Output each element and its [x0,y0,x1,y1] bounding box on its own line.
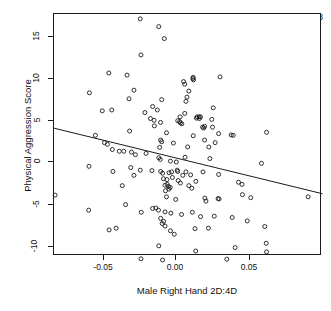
y-tick-mark [48,161,53,162]
scatter-plot-figure: Partial r = -0.21, p = 0.028 -0.05 0.00 … [0,0,331,311]
data-point [207,145,211,149]
data-point [211,106,215,110]
data-point [163,224,167,228]
y-tick-label: 0 [0,156,40,166]
data-point [217,132,221,136]
data-point [107,228,111,232]
data-point [124,203,128,207]
x-tick-label: -0.05 [83,262,123,272]
data-point [240,182,244,186]
data-point [176,178,180,182]
data-point [183,155,187,159]
y-tick-label: 5 [0,115,40,125]
y-axis-title: Physical Aggression Score [22,1,33,271]
data-point [93,133,97,137]
data-point [128,129,132,133]
data-point [240,193,244,197]
data-point [259,161,263,165]
data-point [110,148,114,152]
data-point [168,229,172,233]
data-point [168,159,172,163]
data-point [249,196,253,200]
data-point [211,125,215,129]
data-point [155,108,159,112]
data-point [217,172,221,176]
x-axis-title: Male Right Hand 2D:4D [53,285,321,296]
data-point [132,88,136,92]
data-point [191,134,195,138]
data-point [306,195,310,199]
data-point [151,105,155,109]
y-tick-mark [48,246,53,247]
data-point [139,210,143,214]
data-point [162,37,166,41]
plot-panel [53,13,321,255]
data-point [87,91,91,95]
data-point [138,168,142,172]
data-point [213,141,217,145]
data-point [172,232,176,236]
data-point [230,215,234,219]
data-point [174,160,178,164]
data-point [174,197,178,201]
data-point [152,124,156,128]
data-point [133,153,137,157]
data-point [100,109,104,113]
x-tick-label: 0.05 [229,262,269,272]
data-point [199,215,203,219]
x-tick-label: 0.00 [155,262,195,272]
data-point [178,181,182,185]
data-point [111,169,115,173]
data-point [194,179,198,183]
data-point [159,120,163,124]
data-point [189,173,193,177]
data-point [180,212,184,216]
data-point [129,166,133,170]
data-point [157,244,161,248]
data-point [206,226,210,230]
data-point [170,175,174,179]
data-point [201,170,205,174]
data-point [163,210,167,214]
data-point [144,151,148,155]
data-point [178,115,182,119]
data-point [167,171,171,175]
data-point [120,184,124,188]
data-point [114,226,118,230]
y-tick-mark [48,36,53,37]
data-point [156,208,160,212]
data-points-layer [54,14,322,256]
data-point [132,173,136,177]
data-point [170,170,174,174]
x-tick-mark [175,255,176,260]
x-tick-mark [103,255,104,260]
data-point [150,169,154,173]
x-tick-mark [249,255,250,260]
data-point [218,75,222,79]
data-point [139,53,143,57]
data-point [157,25,161,29]
y-tick-label: 10 [0,73,40,83]
data-point [187,184,191,188]
data-point [87,208,91,212]
data-point [143,111,147,115]
y-tick-mark [48,120,53,121]
data-point [184,170,188,174]
data-point [263,225,267,229]
data-point [160,98,164,102]
data-point [265,250,269,254]
data-point [53,193,57,197]
data-point [245,219,249,223]
data-point [169,211,173,215]
data-point [125,73,129,77]
data-point [190,210,194,214]
data-point [185,95,189,99]
data-point [208,157,212,161]
data-point [117,149,121,153]
y-tick-mark [48,78,53,79]
data-point [265,130,269,134]
data-point [203,138,207,142]
data-point [129,150,133,154]
data-point [165,131,169,135]
data-point [171,141,175,145]
